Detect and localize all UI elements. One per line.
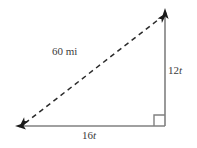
hypotenuse-label-text: 60 mi xyxy=(52,45,77,57)
vertical-leg-coefficient: 12 xyxy=(168,64,179,76)
horizontal-leg-label: 16t xyxy=(82,129,96,141)
horizontal-leg-variable: t xyxy=(93,129,96,141)
vertical-leg-label: 12t xyxy=(168,64,182,76)
hypotenuse-label: 60 mi xyxy=(52,45,77,57)
vertical-leg-variable: t xyxy=(179,64,182,76)
horizontal-leg-coefficient: 16 xyxy=(82,129,93,141)
